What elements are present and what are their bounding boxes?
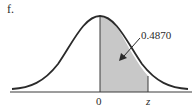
panel-label: f. [7, 3, 14, 15]
x-tick-zero: 0 [96, 95, 102, 107]
x-tick-z: z [146, 95, 150, 107]
shaded-area [100, 16, 148, 92]
normal-curve-figure: f. 0.4870 0 z [0, 0, 196, 112]
area-value-label: 0.4870 [141, 29, 171, 41]
